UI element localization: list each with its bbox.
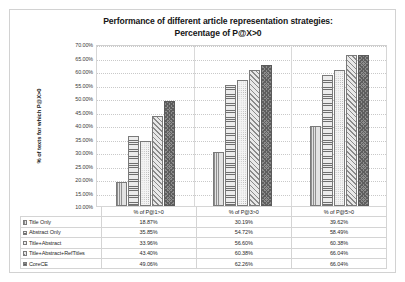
data-table-cell: 35.85% bbox=[101, 227, 196, 237]
bar[interactable] bbox=[213, 152, 224, 207]
chart-title-line-2: Percentage of P@X>0 bbox=[48, 28, 388, 40]
bar[interactable] bbox=[152, 116, 163, 206]
table-row: Abstract Only35.85%54.72%58.49% bbox=[21, 227, 387, 237]
legend-entry: Title+Abstract+RefTitles bbox=[21, 248, 102, 258]
data-table-cell: 18.87% bbox=[101, 217, 196, 227]
data-table-cell: 49.06% bbox=[101, 258, 196, 268]
legend-label: Title+Abstract bbox=[29, 240, 61, 246]
data-table-column-header: % of P@5>0 bbox=[291, 207, 386, 217]
legend-entry: Title Only bbox=[21, 217, 102, 227]
bar-group bbox=[194, 46, 291, 206]
data-table-cell: 62.26% bbox=[196, 258, 291, 268]
legend-label: Abstract Only bbox=[29, 229, 61, 235]
legend-label: Title Only bbox=[29, 219, 51, 225]
data-table-cell: 43.40% bbox=[101, 248, 196, 258]
legend-swatch-icon bbox=[23, 251, 27, 255]
legend-label: Title+Abstract+RefTitles bbox=[29, 250, 85, 256]
y-axis-tick-label: 30.00% bbox=[75, 150, 93, 156]
plot-area bbox=[96, 45, 387, 207]
legend-swatch-icon bbox=[23, 220, 27, 224]
legend-swatch-icon bbox=[23, 262, 27, 266]
y-axis-tick-label: 25.00% bbox=[75, 164, 93, 170]
legend-label: CoreCE bbox=[29, 261, 48, 267]
data-table-cell: 39.62% bbox=[291, 217, 386, 227]
y-axis-tick-label: 35.00% bbox=[75, 137, 93, 143]
data-table-column-header: % of P@3>0 bbox=[196, 207, 291, 217]
bar[interactable] bbox=[261, 65, 272, 206]
data-table-cell: 30.19% bbox=[196, 217, 291, 227]
chart-frame: Performance of different article represe… bbox=[9, 9, 396, 273]
data-table-cell: 66.04% bbox=[291, 248, 386, 258]
data-table-cell: 66.04% bbox=[291, 258, 386, 268]
bar[interactable] bbox=[358, 55, 369, 206]
data-table-cell: 60.38% bbox=[291, 238, 386, 248]
bar[interactable] bbox=[310, 126, 321, 206]
legend-swatch-icon bbox=[23, 231, 27, 235]
bar[interactable] bbox=[128, 136, 139, 206]
bar[interactable] bbox=[164, 101, 175, 206]
bar[interactable] bbox=[237, 80, 248, 206]
chart-data-table: % of P@1>0% of P@3>0% of P@5>0Title Only… bbox=[20, 207, 387, 269]
table-row: Title+Abstract33.96%56.60%60.38% bbox=[21, 238, 387, 248]
data-table-cell: 54.72% bbox=[196, 227, 291, 237]
y-axis-title: % of texts for which P@X>0 bbox=[33, 45, 45, 207]
y-axis-tick-label: 20.00% bbox=[75, 177, 93, 183]
table-row: CoreCE49.06%62.26%66.04% bbox=[21, 258, 387, 268]
bar[interactable] bbox=[116, 182, 127, 206]
y-axis-tick-label: 50.00% bbox=[75, 96, 93, 102]
y-axis-tick-label: 65.00% bbox=[75, 56, 93, 62]
legend-swatch-icon bbox=[23, 241, 27, 245]
data-table-corner bbox=[21, 207, 102, 217]
data-table-cell: 60.38% bbox=[196, 248, 291, 258]
bar[interactable] bbox=[346, 55, 357, 206]
y-axis-title-label: % of texts for which P@X>0 bbox=[36, 88, 42, 163]
y-axis-tick-label: 40.00% bbox=[75, 123, 93, 129]
legend-entry: Abstract Only bbox=[21, 227, 102, 237]
data-table-cell: 58.49% bbox=[291, 227, 386, 237]
data-table-cell: 33.96% bbox=[101, 238, 196, 248]
bar[interactable] bbox=[322, 75, 333, 206]
table-row: Title Only18.87%30.19%39.62% bbox=[21, 217, 387, 227]
bar[interactable] bbox=[140, 141, 151, 206]
bar[interactable] bbox=[249, 70, 260, 206]
chart-title-line-1: Performance of different article represe… bbox=[48, 16, 388, 28]
y-axis-tick-label: 60.00% bbox=[75, 69, 93, 75]
data-table-body: % of P@1>0% of P@3>0% of P@5>0Title Only… bbox=[21, 207, 387, 269]
y-axis-tick-label: 55.00% bbox=[75, 83, 93, 89]
data-table-header-row: % of P@1>0% of P@3>0% of P@5>0 bbox=[21, 207, 387, 217]
bar[interactable] bbox=[334, 70, 345, 206]
y-axis-tick-label: 45.00% bbox=[75, 110, 93, 116]
y-axis-tick-label: 15.00% bbox=[75, 191, 93, 197]
bar-group bbox=[291, 46, 388, 206]
legend-entry: Title+Abstract bbox=[21, 238, 102, 248]
data-table-column-header: % of P@1>0 bbox=[101, 207, 196, 217]
table-row: Title+Abstract+RefTitles43.40%60.38%66.0… bbox=[21, 248, 387, 258]
bar[interactable] bbox=[225, 85, 236, 206]
y-axis-tick-label: 70.00% bbox=[75, 42, 93, 48]
plot-region: 70.00%65.00%60.00%55.00%50.00%45.00%40.0… bbox=[96, 45, 387, 207]
data-table-cell: 56.60% bbox=[196, 238, 291, 248]
bar-group bbox=[97, 46, 194, 206]
chart-title: Performance of different article represe… bbox=[48, 16, 388, 39]
legend-entry: CoreCE bbox=[21, 258, 102, 268]
